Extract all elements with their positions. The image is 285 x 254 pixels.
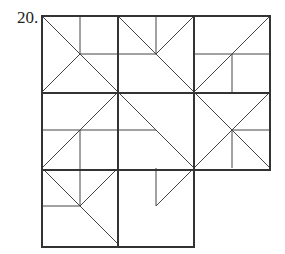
cell-segment xyxy=(80,168,118,206)
inner-lines xyxy=(42,16,270,244)
tangram-grid-figure xyxy=(0,0,285,254)
cell-segment xyxy=(156,16,194,54)
cell-segment xyxy=(42,54,80,92)
cell-segment xyxy=(156,168,194,206)
